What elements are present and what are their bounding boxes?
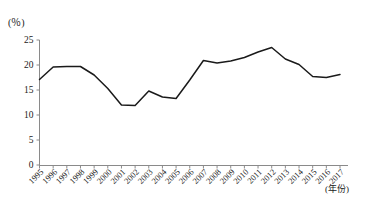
x-axis: 1995199619971998199920002001200220032004… xyxy=(26,165,348,186)
y-tick-label: 0 xyxy=(29,160,34,170)
line-chart: (％) 0510152025 1995199619971998199920002… xyxy=(0,0,371,207)
y-tick-label: 10 xyxy=(24,110,34,120)
data-series-group xyxy=(40,48,341,106)
y-tick-label: 15 xyxy=(24,85,34,95)
chart-canvas: 0510152025 19951996199719981999200020012… xyxy=(0,0,371,207)
x-tick-group: 1995199619971998199920002001200220032004… xyxy=(26,165,346,186)
x-axis-title: (年份) xyxy=(325,182,349,195)
y-tick-label: 5 xyxy=(29,135,34,145)
y-tick-label: 25 xyxy=(24,35,34,45)
y-axis: 0510152025 xyxy=(24,35,40,170)
y-tick-label: 20 xyxy=(24,60,34,70)
y-tick-group: 0510152025 xyxy=(24,35,40,170)
data-line-series xyxy=(40,48,341,106)
